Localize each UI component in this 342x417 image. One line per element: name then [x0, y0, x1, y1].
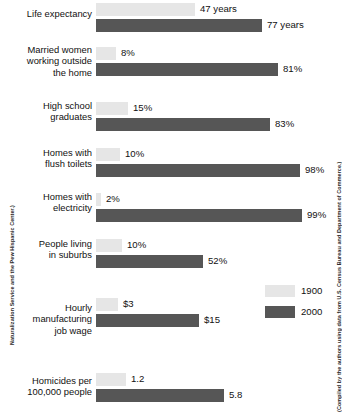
row-bars: 47 years77 years	[96, 0, 342, 44]
row-bars: 8%81%	[96, 44, 342, 88]
row-bars: 2%99%	[96, 190, 342, 234]
legend-swatch-2000	[265, 306, 295, 318]
chart-legend: 19002000	[265, 283, 335, 325]
row-category-label: Married womenworking outsidethe home	[8, 44, 92, 78]
row-category-label: Homicides per100,000 people	[8, 375, 92, 398]
bar-2000	[96, 314, 199, 327]
row-category-label-line: the home	[8, 67, 92, 78]
bar-value-label: 15%	[133, 101, 152, 115]
bar-value-label: 47 years	[200, 2, 237, 16]
chart-row: People livingin suburbs10%52%	[0, 236, 342, 280]
row-bars: 15%83%	[96, 99, 342, 143]
bar-value-label: 10%	[125, 147, 144, 161]
legend-label: 1900	[301, 283, 322, 298]
chart-row: Homes withelectricity2%99%	[0, 190, 342, 234]
row-bars: 10%52%	[96, 236, 342, 280]
row-category-label-line: in suburbs	[8, 249, 92, 260]
bar-2000	[96, 209, 302, 222]
chart-container: Naturalization Service and the Pew Hispa…	[0, 0, 342, 417]
bar-value-label: 77 years	[267, 18, 304, 32]
chart-row: Homicides per100,000 people1.25.8	[0, 370, 342, 414]
row-category-label: Hourlymanufacturingjob wage	[8, 302, 92, 336]
bar-2000	[96, 63, 278, 76]
bar-1900	[96, 47, 116, 60]
bar-value-label: 1.2	[131, 372, 144, 386]
row-category-label-line: Homes with	[8, 147, 92, 158]
row-category-label-line: working outside	[8, 55, 92, 66]
bar-value-label: 8%	[121, 46, 135, 60]
row-category-label-line: manufacturing	[8, 313, 92, 324]
row-category-label-line: 100,000 people	[8, 386, 92, 397]
bar-value-label: 2%	[106, 192, 120, 206]
row-bars: 10%98%	[96, 145, 342, 189]
bar-2000	[96, 164, 300, 177]
legend-item: 2000	[265, 304, 335, 325]
bar-2000	[96, 19, 262, 32]
bar-value-label: $3	[123, 297, 134, 311]
chart-row: High schoolgraduates15%83%	[0, 99, 342, 143]
bar-1900	[96, 193, 101, 206]
bar-value-label: $15	[204, 313, 220, 327]
bar-value-label: 99%	[307, 208, 326, 222]
chart-row: Homes withflush toilets10%98%	[0, 145, 342, 189]
legend-label: 2000	[301, 304, 322, 319]
chart-row: Life expectancy47 years77 years	[0, 0, 342, 44]
bar-1900	[96, 148, 120, 161]
row-category-label-line: flush toilets	[8, 158, 92, 169]
bar-1900	[96, 3, 195, 16]
chart-row: Married womenworking outsidethe home8%81…	[0, 44, 342, 88]
bar-value-label: 10%	[127, 238, 146, 252]
bar-2000	[96, 118, 270, 131]
bar-value-label: 81%	[283, 62, 302, 76]
bar-value-label: 98%	[305, 163, 324, 177]
row-category-label-line: Life expectancy	[8, 8, 92, 19]
bar-1900	[96, 239, 122, 252]
row-category-label-line: Homes with	[8, 191, 92, 202]
bar-1900	[96, 102, 128, 115]
row-category-label: Life expectancy	[8, 8, 92, 19]
row-bars: 1.25.8	[96, 370, 342, 414]
row-category-label: High schoolgraduates	[8, 100, 92, 123]
bar-1900	[96, 373, 126, 386]
row-category-label-line: Hourly	[8, 302, 92, 313]
row-category-label: Homes withelectricity	[8, 191, 92, 214]
bar-2000	[96, 255, 203, 268]
bar-value-label: 52%	[208, 254, 227, 268]
legend-item: 1900	[265, 283, 335, 304]
row-category-label-line: graduates	[8, 111, 92, 122]
row-category-label: People livingin suburbs	[8, 238, 92, 261]
row-category-label-line: Married women	[8, 44, 92, 55]
bar-value-label: 83%	[275, 117, 294, 131]
bar-1900	[96, 298, 118, 311]
row-category-label-line: job wage	[8, 325, 92, 336]
bar-2000	[96, 389, 224, 402]
row-category-label-line: People living	[8, 238, 92, 249]
legend-swatch-1900	[265, 285, 295, 297]
row-category-label-line: Homicides per	[8, 375, 92, 386]
row-category-label-line: electricity	[8, 202, 92, 213]
bar-value-label: 5.8	[229, 388, 242, 402]
row-category-label-line: High school	[8, 100, 92, 111]
row-category-label: Homes withflush toilets	[8, 147, 92, 170]
